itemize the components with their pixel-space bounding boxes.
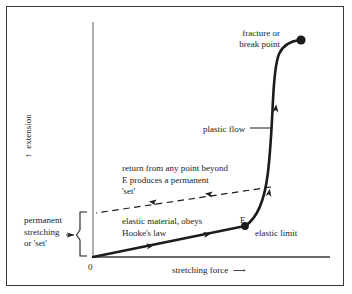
- fracture-label: fracture or break point: [214, 28, 280, 50]
- x-axis-arrow-icon: ⟶: [228, 265, 245, 275]
- plastic-flow-label: plastic flow: [203, 124, 245, 135]
- plastic-flow-curve: [245, 40, 300, 226]
- permanent-set-brace: [77, 212, 88, 256]
- elastic-limit-point-label: E: [240, 215, 246, 226]
- hookes-law-label: elastic material, obeys Hooke's law: [122, 216, 202, 239]
- x-axis-label: stretching force ⟶: [172, 265, 246, 276]
- x-axis-label-text: stretching force: [172, 265, 228, 275]
- y-axis-arrow-icon: ↑: [23, 149, 33, 158]
- y-axis-label: ↑ extension: [23, 91, 33, 181]
- elastic-limit-label: elastic limit: [255, 228, 297, 239]
- permanent-set-label: permanent stretching or 'set': [24, 215, 62, 250]
- figure-page: fracture or break point plastic flow ret…: [0, 0, 352, 294]
- origin-label: 0: [88, 262, 93, 273]
- y-axis-label-text: extension: [23, 114, 33, 149]
- return-note-label: return from any point beyond E produces …: [122, 163, 228, 198]
- fracture-point-dot: [296, 35, 305, 44]
- stress-strain-graphic: [0, 0, 352, 294]
